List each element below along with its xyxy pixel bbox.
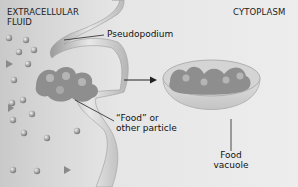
- extracellular-particles: [6, 35, 80, 174]
- vacuole-label-line1: Food: [211, 150, 251, 160]
- extracellular-fluid-label: Extracellular fluid: [7, 8, 79, 28]
- food-particle-label: “Food” or other particle: [116, 113, 177, 134]
- pseudopodium-label: Pseudopodium: [107, 29, 173, 39]
- food-vacuole: [163, 60, 260, 110]
- extracellular-label-line2: fluid: [7, 18, 79, 28]
- vacuole-label-line2: vacuole: [211, 160, 251, 170]
- process-arrow: [124, 77, 157, 84]
- phagocytosis-diagram: Extracellular fluid Cytoplasm Pseudopodi…: [0, 0, 298, 187]
- food-vacuole-label: Food vacuole: [211, 150, 251, 171]
- food-label-line1: “Food” or: [116, 113, 177, 123]
- food-label-line2: other particle: [116, 123, 177, 133]
- cytoplasm-label: Cytoplasm: [233, 8, 285, 18]
- food-particle-engulfing: [36, 67, 98, 102]
